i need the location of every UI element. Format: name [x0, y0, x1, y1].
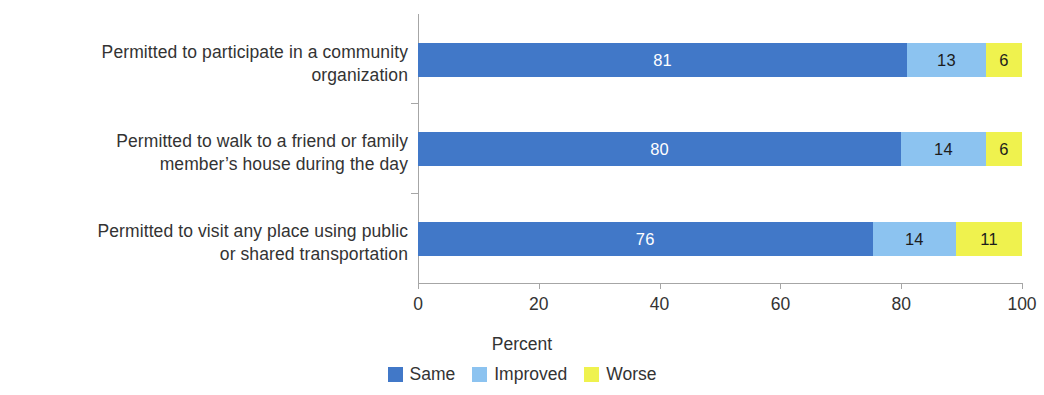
- x-axis-title: Percent: [0, 334, 1044, 355]
- x-tick-mark: [539, 283, 540, 289]
- bar-value-label: 81: [653, 52, 672, 69]
- bar-value-label: 6: [999, 141, 1008, 158]
- bar-segment-same[interactable]: 80: [418, 132, 901, 166]
- x-tick-label: 40: [650, 294, 669, 315]
- legend-swatch-icon: [388, 367, 403, 382]
- category-label-2: Permitted to visit any place using publi…: [0, 220, 408, 266]
- bar-value-label: 76: [636, 231, 655, 248]
- category-label-0-line-0: Permitted to participate in a community: [0, 41, 408, 64]
- bar-segment-worse[interactable]: 6: [986, 43, 1022, 77]
- bar-value-label: 6: [999, 52, 1008, 69]
- x-tick-mark: [660, 283, 661, 289]
- bar-value-label: 14: [905, 231, 924, 248]
- bar-segment-improved[interactable]: 13: [907, 43, 986, 77]
- category-axis-labels: Permitted to participate in a community …: [0, 0, 408, 283]
- bar-value-label: 14: [934, 141, 953, 158]
- legend-label: Worse: [606, 366, 656, 384]
- legend-item-worse[interactable]: Worse: [584, 366, 656, 384]
- category-label-1: Permitted to walk to a friend or family …: [0, 130, 408, 176]
- category-label-1-line-0: Permitted to walk to a friend or family: [0, 130, 408, 153]
- x-tick-mark: [901, 283, 902, 289]
- legend-item-same[interactable]: Same: [388, 366, 456, 384]
- x-axis-line: [418, 283, 1022, 284]
- bar-segment-improved[interactable]: 14: [901, 132, 986, 166]
- bar-segment-improved[interactable]: 14: [873, 222, 957, 256]
- bar-row: 761411: [418, 222, 1022, 256]
- chart-legend: SameImprovedWorse: [0, 366, 1044, 384]
- x-tick-label: 60: [771, 294, 790, 315]
- bar-value-label: 80: [650, 141, 669, 158]
- legend-label: Same: [410, 366, 456, 384]
- bar-segment-worse[interactable]: 11: [956, 222, 1022, 256]
- legend-swatch-icon: [584, 367, 599, 382]
- bar-row: 80146: [418, 132, 1022, 166]
- bar-value-label: 11: [980, 231, 998, 248]
- category-label-2-line-1: or shared transportation: [0, 243, 408, 266]
- x-tick-label: 100: [1007, 294, 1036, 315]
- bar-segment-same[interactable]: 76: [418, 222, 873, 256]
- legend-item-improved[interactable]: Improved: [472, 366, 567, 384]
- bar-segment-worse[interactable]: 6: [986, 132, 1022, 166]
- x-tick-mark: [780, 283, 781, 289]
- legend-swatch-icon: [472, 367, 487, 382]
- category-tick-0: [411, 103, 418, 104]
- category-label-0: Permitted to participate in a community …: [0, 41, 408, 87]
- legend-label: Improved: [494, 366, 567, 384]
- category-label-0-line-1: organization: [0, 64, 408, 87]
- category-label-2-line-0: Permitted to visit any place using publi…: [0, 220, 408, 243]
- category-tick-1: [411, 193, 418, 194]
- stacked-bar-chart: Permitted to participate in a community …: [0, 0, 1044, 395]
- category-label-1-line-1: member’s house during the day: [0, 153, 408, 176]
- x-tick-label: 0: [413, 294, 423, 315]
- bar-segment-same[interactable]: 81: [418, 43, 907, 77]
- x-tick-label: 20: [529, 294, 548, 315]
- bar-value-label: 13: [937, 52, 956, 69]
- plot-area: 8113680146761411 020406080100: [418, 14, 1022, 283]
- x-tick-mark: [418, 283, 419, 289]
- x-tick-label: 80: [891, 294, 910, 315]
- x-tick-mark: [1022, 283, 1023, 289]
- bar-row: 81136: [418, 43, 1022, 77]
